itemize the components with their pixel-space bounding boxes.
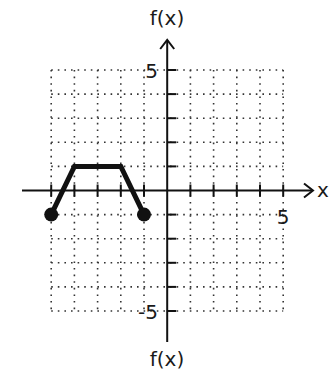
tick-label-y-5: 5	[145, 59, 158, 83]
closed-endpoint-dot	[44, 208, 58, 222]
tick-label-y-neg5: -5	[138, 300, 158, 324]
closed-endpoint-dot	[137, 208, 151, 222]
bottom-axis-label: f(x)	[150, 347, 184, 371]
top-axis-label: f(x)	[150, 6, 184, 30]
x-axis-label: x	[317, 178, 329, 202]
axes	[22, 40, 313, 342]
tick-label-x-5: 5	[277, 205, 290, 229]
function-graph: f(x) f(x) x 5 5 -5	[0, 0, 331, 383]
